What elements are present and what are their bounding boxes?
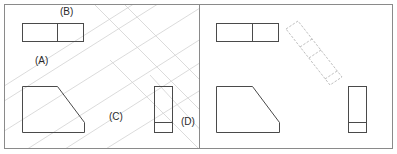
projection-diagram: (B) (A) (C) (D) xyxy=(0,0,397,154)
label-d: (D) xyxy=(181,116,195,127)
label-c: (C) xyxy=(109,111,123,122)
label-a: (A) xyxy=(35,55,48,66)
label-b: (B) xyxy=(60,6,73,17)
